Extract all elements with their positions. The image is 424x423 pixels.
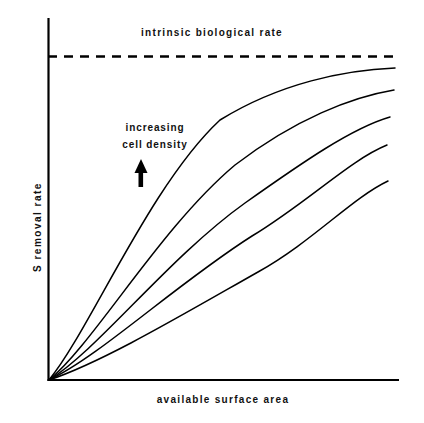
y-axis-label: S removal rate <box>30 182 45 272</box>
curve-density-1 <box>49 181 388 380</box>
curve-density-3 <box>49 117 390 380</box>
annotation-line-1: increasing <box>125 122 184 133</box>
x-axis-label: available surface area <box>48 392 398 407</box>
arrow-up-icon <box>135 159 148 187</box>
asymptote-label: intrinsic biological rate <box>0 25 424 40</box>
increasing-cell-density-annotation: increasing cell density <box>98 119 212 153</box>
curve-density-5 <box>49 68 395 380</box>
chart-canvas <box>0 0 424 423</box>
annotation-line-2: cell density <box>98 136 212 153</box>
figure-panel: intrinsic biological rate increasing cel… <box>0 0 424 423</box>
